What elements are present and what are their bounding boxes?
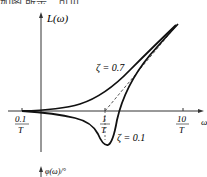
y-axis-arrow-icon bbox=[39, 12, 43, 18]
y-axis-label: L(ω) bbox=[46, 12, 69, 25]
bode-magnitude-plot: L(ω) ω 0.1 T 1 T 10 T ζ = 0.7 ζ = 0.1 φ(… bbox=[0, 0, 207, 177]
annotation-zeta-0.7: ζ = 0.7 bbox=[96, 62, 125, 74]
annotation-zeta-0.1: ζ = 0.1 bbox=[117, 132, 145, 144]
tick-label-1-den: T bbox=[101, 125, 107, 135]
tick-label-10-den: T bbox=[179, 125, 185, 135]
x-axis-label: ω bbox=[201, 117, 207, 127]
tick-label-10-num: 10 bbox=[177, 114, 187, 124]
tick-label-1-num: 1 bbox=[102, 114, 107, 124]
tick-label-0.1-num: 0.1 bbox=[15, 114, 26, 124]
curve-zeta-0.1 bbox=[22, 24, 178, 145]
phase-axis-label: φ(ω)/° bbox=[45, 167, 67, 176]
x-axis-arrow-icon bbox=[198, 109, 204, 113]
tick-label-0.1-den: T bbox=[18, 125, 24, 135]
phase-axis-arrow-icon bbox=[39, 166, 43, 172]
